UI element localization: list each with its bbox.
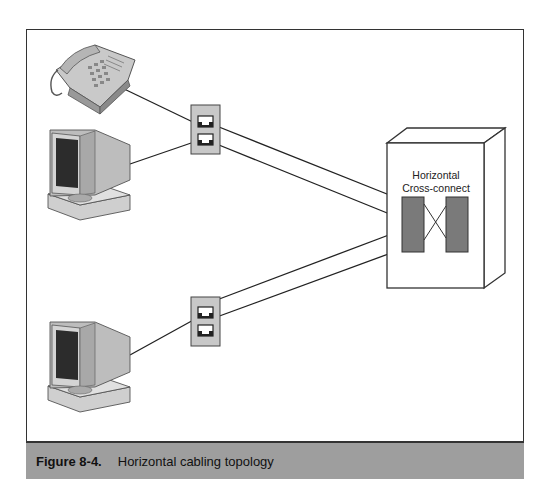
- figure-number: Figure 8-4.: [36, 454, 102, 469]
- figure-title: Horizontal cabling topology: [118, 454, 274, 469]
- wall-outlet-icon: [191, 297, 220, 346]
- computer-icon: [48, 130, 130, 220]
- figure-caption: Figure 8-4. Horizontal cabling topology: [26, 441, 524, 479]
- computer-icon: [48, 322, 130, 412]
- horizontal-cables: [214, 125, 402, 318]
- telephone-icon: [51, 45, 135, 114]
- cabling-diagram: [0, 0, 549, 495]
- wall-outlet-icon: [191, 105, 220, 154]
- device-cables: [120, 87, 197, 355]
- cabinet-label: Horizontal Cross-connect: [392, 169, 480, 195]
- cabinet-label-line1: Horizontal: [392, 169, 480, 182]
- cabinet-label-line2: Cross-connect: [392, 182, 480, 195]
